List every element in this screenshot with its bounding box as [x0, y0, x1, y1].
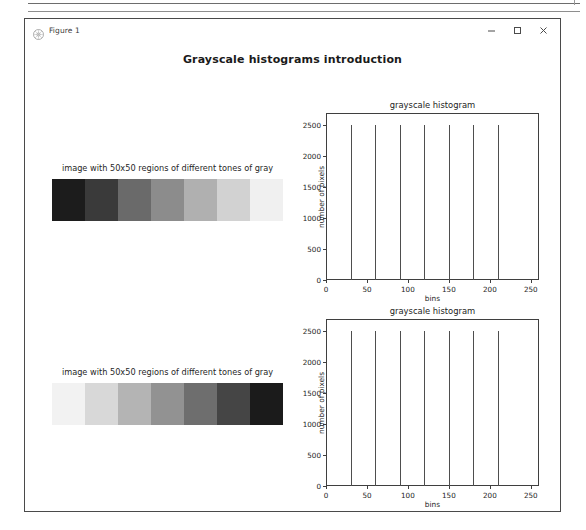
histogram-bar	[498, 125, 499, 280]
image-panel-bottom: image with 50x50 regions of different to…	[52, 367, 283, 427]
plot-frame-top	[326, 113, 539, 280]
y-tick-mark	[323, 424, 326, 425]
image-panel-top-title: image with 50x50 regions of different to…	[52, 163, 283, 173]
gray-band-5	[217, 179, 250, 221]
histogram-bar	[375, 331, 376, 486]
matplotlib-figure-icon	[33, 25, 44, 36]
y-tick-mark	[323, 331, 326, 332]
histogram-bar	[449, 125, 450, 280]
figure-canvas: Grayscale histograms introduction image …	[25, 41, 560, 511]
x-tick-mark	[490, 280, 491, 283]
y-tick-mark	[323, 362, 326, 363]
x-tick-mark	[449, 280, 450, 283]
page-corner-mark	[574, 0, 581, 5]
gray-band-5	[217, 383, 250, 425]
gray-band-0	[52, 179, 85, 221]
y-tick-mark	[323, 125, 326, 126]
x-tick-mark	[531, 280, 532, 283]
x-tick-mark	[531, 486, 532, 489]
histogram-bar	[400, 125, 401, 280]
gray-band-4	[184, 179, 217, 221]
figure-window: Figure 1 Grayscale histograms introdu	[24, 18, 561, 512]
histogram-bar	[400, 331, 401, 486]
x-tick-mark	[367, 280, 368, 283]
x-tick-mark	[326, 486, 327, 489]
grayscale-strip-descending	[52, 383, 283, 425]
gray-band-0	[52, 383, 85, 425]
x-tick-mark	[408, 280, 409, 283]
gray-band-2	[118, 179, 151, 221]
image-panel-top: image with 50x50 regions of different to…	[52, 163, 283, 223]
histogram-bar	[473, 125, 474, 280]
x-axis-label-bottom: bins	[326, 500, 539, 509]
x-tick-mark	[326, 280, 327, 283]
gray-band-3	[151, 383, 184, 425]
grayscale-strip-ascending	[52, 179, 283, 221]
histogram-bar	[498, 331, 499, 486]
window-controls	[478, 21, 556, 39]
chart-title-bottom: grayscale histogram	[326, 306, 539, 316]
histogram-bar	[351, 125, 352, 280]
x-tick-mark	[490, 486, 491, 489]
y-tick-mark	[323, 187, 326, 188]
gray-band-3	[151, 179, 184, 221]
page-divider-second	[28, 11, 580, 12]
x-tick-mark	[408, 486, 409, 489]
chart-title-top: grayscale histogram	[326, 100, 539, 110]
page-divider-top	[28, 3, 580, 4]
x-tick-mark	[367, 486, 368, 489]
window-title: Figure 1	[49, 26, 80, 35]
image-panel-bottom-title: image with 50x50 regions of different to…	[52, 367, 283, 377]
window-titlebar[interactable]: Figure 1	[25, 19, 560, 41]
histogram-bar	[473, 331, 474, 486]
histogram-bar	[424, 125, 425, 280]
y-tick-mark	[323, 218, 326, 219]
gray-band-1	[85, 383, 118, 425]
chart-grayscale-histogram-bottom: grayscale histogram number of pixels bin…	[326, 319, 539, 486]
gray-band-1	[85, 179, 118, 221]
y-tick-mark	[323, 455, 326, 456]
x-axis-label-top: bins	[326, 294, 539, 303]
y-tick-mark	[323, 249, 326, 250]
y-tick-mark	[323, 156, 326, 157]
figure-suptitle: Grayscale histograms introduction	[25, 53, 560, 66]
gray-band-4	[184, 383, 217, 425]
histogram-bar	[375, 125, 376, 280]
gray-band-6	[250, 383, 283, 425]
minimize-icon[interactable]	[478, 21, 504, 39]
gray-band-2	[118, 383, 151, 425]
gray-band-6	[250, 179, 283, 221]
histogram-bar	[424, 331, 425, 486]
maximize-icon[interactable]	[504, 21, 530, 39]
y-tick-mark	[323, 393, 326, 394]
chart-grayscale-histogram-top: grayscale histogram number of pixels bin…	[326, 113, 539, 280]
plot-frame-bottom	[326, 319, 539, 486]
close-icon[interactable]	[530, 21, 556, 39]
histogram-bar	[351, 331, 352, 486]
x-tick-mark	[449, 486, 450, 489]
histogram-bar	[449, 331, 450, 486]
